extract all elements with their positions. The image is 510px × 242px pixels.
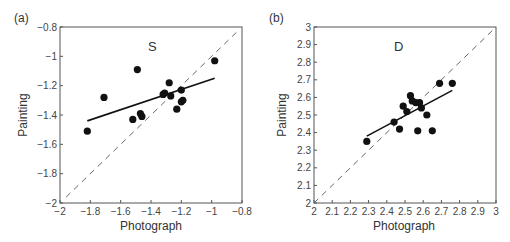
data-point bbox=[396, 125, 403, 132]
y-axis-label: Painting bbox=[275, 65, 289, 165]
chart-title: D bbox=[394, 39, 403, 54]
x-axis-label: Photograph bbox=[60, 219, 242, 233]
data-point bbox=[418, 104, 425, 111]
y-tick-label: −1.4 bbox=[37, 110, 57, 121]
plot-area: −2−1.8−1.6−1.4−1.2−1−0.8−2−1.8−1.6−1.4−1… bbox=[0, 0, 255, 242]
y-tick-label: −1 bbox=[46, 51, 58, 62]
x-axis-label: Photograph bbox=[313, 219, 495, 233]
data-point bbox=[436, 80, 443, 87]
y-tick-label: 3 bbox=[305, 22, 311, 33]
data-point bbox=[166, 79, 173, 86]
y-tick-label: −2 bbox=[46, 198, 58, 209]
data-point bbox=[138, 113, 145, 120]
x-tick-label: 2.1 bbox=[325, 206, 339, 217]
x-tick-label: −1.4 bbox=[141, 206, 161, 217]
data-point bbox=[414, 127, 421, 134]
chart-panel-b: (b) 22.12.22.32.42.52.62.72.82.9322.12.2… bbox=[255, 0, 510, 242]
data-point bbox=[211, 57, 218, 64]
x-tick-label: −1.8 bbox=[80, 206, 100, 217]
y-tick-label: 2.3 bbox=[297, 145, 311, 156]
data-point bbox=[134, 66, 141, 73]
x-tick-label: −0.8 bbox=[232, 206, 252, 217]
x-tick-label: 2.2 bbox=[343, 206, 357, 217]
y-tick-label: 2.1 bbox=[297, 180, 311, 191]
y-tick-label: 2.9 bbox=[297, 39, 311, 50]
identity-line bbox=[66, 30, 239, 197]
x-tick-label: 2.8 bbox=[453, 206, 467, 217]
data-point bbox=[179, 97, 186, 104]
y-tick-label: −1.8 bbox=[37, 168, 57, 179]
data-point bbox=[84, 128, 91, 135]
data-point bbox=[390, 118, 397, 125]
y-tick-label: 2 bbox=[305, 198, 311, 209]
y-tick-label: −1.2 bbox=[37, 80, 57, 91]
x-tick-label: 2.5 bbox=[398, 206, 412, 217]
y-tick-label: −0.8 bbox=[37, 22, 57, 33]
data-point bbox=[100, 94, 107, 101]
x-tick-label: 2.3 bbox=[362, 206, 376, 217]
y-tick-label: 2.4 bbox=[297, 127, 311, 138]
y-tick-label: 2.6 bbox=[297, 92, 311, 103]
data-point bbox=[173, 106, 180, 113]
y-tick-label: −1.6 bbox=[37, 139, 57, 150]
data-point bbox=[449, 80, 456, 87]
chart-title: S bbox=[148, 39, 157, 54]
x-tick-label: −1.6 bbox=[111, 206, 131, 217]
data-point bbox=[403, 108, 410, 115]
data-point bbox=[363, 138, 370, 145]
x-tick-label: 2.6 bbox=[416, 206, 430, 217]
data-point bbox=[129, 116, 136, 123]
y-tick-label: 2.7 bbox=[297, 74, 311, 85]
data-point bbox=[429, 127, 436, 134]
data-point bbox=[178, 86, 185, 93]
plot-area: 22.12.22.32.42.52.62.72.82.9322.12.22.32… bbox=[255, 0, 510, 242]
x-tick-label: 3 bbox=[493, 206, 499, 217]
y-tick-label: 2.2 bbox=[297, 162, 311, 173]
x-tick-label: 2.4 bbox=[380, 206, 394, 217]
y-tick-label: 2.8 bbox=[297, 57, 311, 68]
y-tick-label: 2.5 bbox=[297, 110, 311, 121]
data-point bbox=[423, 111, 430, 118]
x-tick-label: −1 bbox=[206, 206, 218, 217]
x-tick-label: 2.9 bbox=[471, 206, 485, 217]
x-tick-label: −1.2 bbox=[171, 206, 191, 217]
y-axis-label: Painting bbox=[16, 65, 30, 165]
chart-panel-a: (a) −2−1.8−1.6−1.4−1.2−1−0.8−2−1.8−1.6−1… bbox=[0, 0, 255, 242]
x-tick-label: 2 bbox=[311, 206, 317, 217]
x-tick-label: 2.7 bbox=[434, 206, 448, 217]
data-point bbox=[167, 92, 174, 99]
